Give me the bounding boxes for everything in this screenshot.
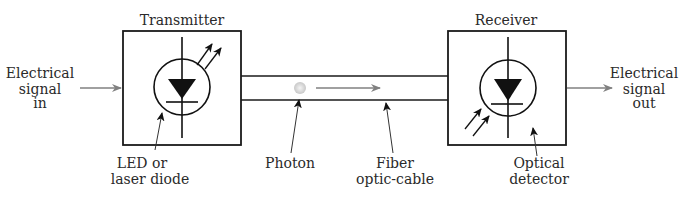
- led-label-line1: LED or: [117, 155, 168, 171]
- led-label-line2: laser diode: [111, 171, 190, 187]
- photon-icon: [294, 82, 306, 94]
- receiver-title: Receiver: [475, 12, 538, 28]
- fiber-label-line1: Fiber: [376, 155, 414, 171]
- detector-label-line1: Optical: [513, 155, 565, 171]
- fiber-optic-diagram: Electrical signal in Transmitter Receive…: [0, 0, 687, 200]
- photon-label: Photon: [265, 155, 315, 171]
- transmitter-title: Transmitter: [140, 12, 225, 28]
- input-label-line1: Electrical: [6, 65, 75, 81]
- output-label-line3: out: [632, 95, 655, 111]
- output-label-line1: Electrical: [610, 65, 679, 81]
- fiber-callout-arrow: [386, 103, 393, 153]
- photon-callout-arrow: [291, 100, 299, 153]
- detector-label-line2: detector: [509, 171, 569, 187]
- input-label-line3: in: [33, 95, 47, 111]
- fiber-label-line2: optic-cable: [356, 171, 434, 187]
